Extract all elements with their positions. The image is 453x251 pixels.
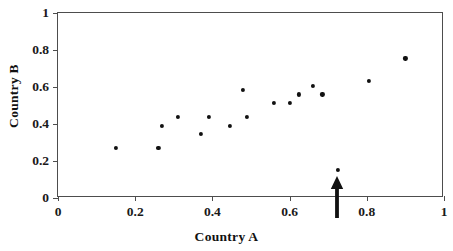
x-axis-tick-label: 1 xyxy=(441,205,448,219)
x-axis-tick xyxy=(367,196,368,201)
plot-area: 00.20.40.60.8100.20.40.60.81 xyxy=(57,12,443,197)
y-axis-tick xyxy=(53,124,58,125)
x-axis-tick xyxy=(135,196,136,201)
x-axis-tick-label: 0.2 xyxy=(127,205,144,219)
data-point xyxy=(176,115,180,119)
data-point xyxy=(297,92,301,96)
y-axis-tick xyxy=(53,50,58,51)
y-axis-title: Country B xyxy=(6,46,22,146)
x-axis-tick-label: 0 xyxy=(55,205,62,219)
data-point xyxy=(156,146,160,150)
y-axis-tick xyxy=(53,161,58,162)
y-axis-tick xyxy=(53,13,58,14)
y-axis-tick-label: 0.8 xyxy=(32,43,49,57)
x-axis-tick-label: 0.4 xyxy=(204,205,221,219)
data-point xyxy=(336,168,340,172)
data-point xyxy=(206,115,210,119)
data-point xyxy=(311,84,315,88)
x-axis-tick xyxy=(290,196,291,201)
scatter-chart-figure: Country B 00.20.40.60.8100.20.40.60.81 C… xyxy=(0,0,453,251)
x-axis-tick xyxy=(444,196,445,201)
data-point xyxy=(160,124,164,128)
x-axis-title: Country A xyxy=(0,229,453,245)
x-axis-tick xyxy=(58,196,59,201)
data-point xyxy=(403,56,407,60)
y-axis-tick xyxy=(53,87,58,88)
y-axis-tick-label: 0.4 xyxy=(32,117,49,131)
x-axis-tick xyxy=(212,196,213,201)
data-point xyxy=(228,124,232,128)
data-point xyxy=(320,92,324,96)
data-point xyxy=(114,146,118,150)
y-axis-tick-label: 0 xyxy=(42,191,49,205)
data-point xyxy=(288,101,292,105)
data-point xyxy=(245,115,249,119)
y-axis-tick-label: 1 xyxy=(42,6,49,20)
x-axis-tick-label: 0.8 xyxy=(358,205,375,219)
data-point xyxy=(367,78,371,82)
data-point xyxy=(272,101,276,105)
x-axis-tick-label: 0.6 xyxy=(281,205,298,219)
data-point xyxy=(199,132,203,136)
y-axis-tick-label: 0.2 xyxy=(32,154,49,168)
data-point xyxy=(241,88,245,92)
up-arrow-annotation-icon xyxy=(330,176,344,218)
y-axis-tick-label: 0.6 xyxy=(32,80,49,94)
